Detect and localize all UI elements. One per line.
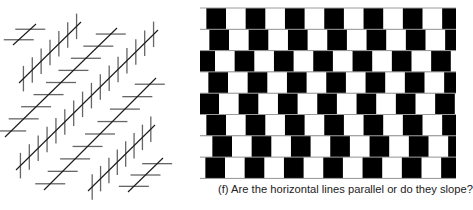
light-tile [383, 115, 403, 136]
light-tile [343, 157, 363, 178]
light-tile [429, 136, 449, 157]
light-tile [267, 72, 287, 93]
zollner-line-group [4, 24, 46, 45]
zollner-line-group [19, 14, 81, 92]
light-tile [200, 136, 212, 157]
cafe-wall-illusion-figure [200, 0, 456, 182]
light-tile [382, 157, 402, 178]
light-tile [376, 93, 396, 114]
light-tile [350, 136, 370, 157]
light-tile [304, 157, 324, 178]
light-tile [389, 136, 409, 157]
light-tile [298, 93, 318, 114]
light-tile [455, 93, 456, 114]
light-tile [215, 51, 235, 72]
light-tile [383, 8, 403, 29]
light-tile [333, 51, 353, 72]
light-tile [385, 72, 405, 93]
light-tile [225, 157, 245, 178]
light-tile [219, 93, 239, 114]
light-tile [426, 29, 446, 50]
light-tile [200, 115, 206, 136]
light-tile [228, 72, 248, 93]
diagonal-line [13, 24, 36, 45]
light-tile [226, 115, 246, 136]
light-tile [271, 136, 291, 157]
light-tile [346, 72, 366, 93]
light-tile [422, 157, 442, 178]
light-tile [229, 29, 249, 50]
light-tile [200, 29, 209, 50]
light-tile [226, 8, 246, 29]
light-tile [451, 51, 456, 72]
light-tile [232, 136, 252, 157]
light-tile [200, 157, 205, 178]
zollner-illusion-figure [0, 0, 190, 210]
light-tile [416, 93, 436, 114]
light-tile [200, 8, 206, 29]
light-tile [254, 51, 274, 72]
light-tile [265, 115, 285, 136]
light-tile [308, 29, 328, 50]
light-tile [264, 157, 284, 178]
light-tile [307, 72, 327, 93]
light-tile [386, 29, 406, 50]
light-tile [344, 115, 364, 136]
light-tile [372, 51, 392, 72]
light-tile [337, 93, 357, 114]
light-tile [265, 8, 285, 29]
light-tile [344, 8, 364, 29]
light-tile [305, 8, 325, 29]
light-tile [347, 29, 367, 50]
light-tile [425, 72, 445, 93]
light-tile [305, 115, 325, 136]
light-tile [311, 136, 331, 157]
zollner-line-group [16, 22, 158, 179]
figure-caption: (f) Are the horizontal lines parallel or… [218, 183, 473, 195]
zollner-line-group [88, 116, 155, 199]
zollner-line-group [119, 158, 172, 192]
light-tile [268, 29, 288, 50]
light-tile [423, 115, 443, 136]
light-tile [200, 72, 208, 93]
light-tile [412, 51, 432, 72]
light-tile [423, 8, 443, 29]
light-tile [294, 51, 314, 72]
diagonal-line [88, 125, 155, 191]
diagonal-line [16, 30, 158, 170]
light-tile [258, 93, 278, 114]
